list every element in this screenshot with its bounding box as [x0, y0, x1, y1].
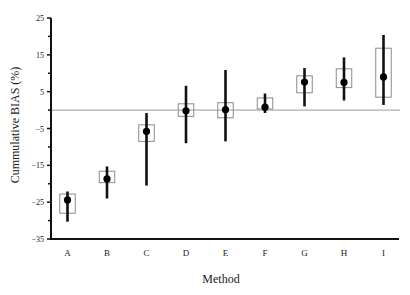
x-category-label: F: [262, 248, 267, 258]
series-layer: [60, 35, 392, 222]
mean-marker: [340, 79, 347, 86]
data-point-A: [60, 191, 76, 221]
data-point-H: [336, 57, 352, 100]
mean-marker: [103, 175, 110, 182]
data-point-B: [99, 166, 115, 198]
data-point-D: [178, 86, 194, 143]
x-category-label: D: [183, 248, 190, 258]
mean-marker: [301, 78, 308, 85]
x-category-label: A: [64, 248, 71, 258]
x-category-label: E: [223, 248, 229, 258]
x-category-label: G: [301, 248, 308, 258]
data-point-G: [297, 68, 313, 106]
mean-marker: [143, 128, 150, 135]
data-point-C: [139, 113, 155, 186]
chart: 25155−5−15−25−35ABCDEFGHI Method Cummula…: [0, 0, 410, 295]
y-tick-label: −35: [31, 235, 44, 244]
y-tick-label: 5: [40, 88, 44, 97]
y-tick-label: 25: [36, 14, 44, 23]
mean-marker: [222, 106, 229, 113]
mean-marker: [261, 104, 268, 111]
x-category-label: H: [341, 248, 348, 258]
axes-layer: 25155−5−15−25−35ABCDEFGHI: [31, 14, 399, 258]
y-tick-label: −5: [35, 125, 44, 134]
y-tick-label: 15: [36, 51, 44, 60]
mean-marker: [380, 73, 387, 80]
x-category-label: C: [143, 248, 149, 258]
mean-marker: [64, 196, 71, 203]
y-tick-label: −25: [31, 198, 44, 207]
x-category-label: I: [382, 248, 385, 258]
x-category-label: B: [104, 248, 110, 258]
y-axis-title: Cummulative BIAS (%): [8, 67, 22, 184]
data-point-E: [218, 70, 234, 141]
data-point-I: [376, 35, 392, 105]
x-axis-title: Method: [202, 272, 239, 286]
y-tick-label: −15: [31, 161, 44, 170]
mean-marker: [182, 107, 189, 114]
